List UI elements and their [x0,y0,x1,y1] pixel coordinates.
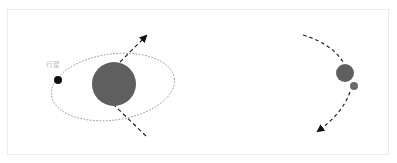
trajectory-lower-dashed-line [113,104,148,138]
curved-trajectory-upper [303,35,343,62]
star-circle [92,62,136,106]
diagram-canvas [0,0,397,163]
left-panel [47,36,179,138]
large-body-circle [336,64,354,82]
small-body-circle [350,82,358,90]
trajectory-upper-arrow [120,36,146,62]
planet-dot [54,76,62,84]
right-panel [303,35,358,131]
planet-label: 行星 [46,62,60,69]
curved-trajectory-lower-arrow [318,92,350,131]
